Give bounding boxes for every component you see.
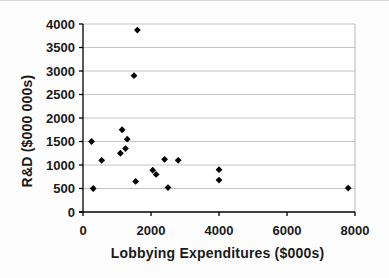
x-tick-label: 0 <box>79 223 86 238</box>
plot-area: 0500100015002000250030003500400002000400… <box>0 0 389 278</box>
y-tick-label: 500 <box>53 181 75 196</box>
y-tick-label: 4000 <box>46 17 75 32</box>
y-axis-title: R&D ($000 000s) <box>19 51 35 211</box>
x-axis-title: Lobbying Expenditures ($000s) <box>60 245 375 261</box>
y-tick-label: 3500 <box>46 40 75 55</box>
y-tick-label: 1500 <box>46 134 75 149</box>
y-tick-label: 1000 <box>46 158 75 173</box>
y-tick-label: 2000 <box>46 111 75 126</box>
x-tick-label: 6000 <box>273 223 302 238</box>
y-tick-label: 0 <box>68 205 75 220</box>
x-tick-label: 2000 <box>137 223 166 238</box>
y-tick-label: 2500 <box>46 87 75 102</box>
x-tick-label: 4000 <box>205 223 234 238</box>
scatter-chart: 0500100015002000250030003500400002000400… <box>0 0 389 278</box>
x-tick-label: 8000 <box>341 223 370 238</box>
y-tick-label: 3000 <box>46 64 75 79</box>
